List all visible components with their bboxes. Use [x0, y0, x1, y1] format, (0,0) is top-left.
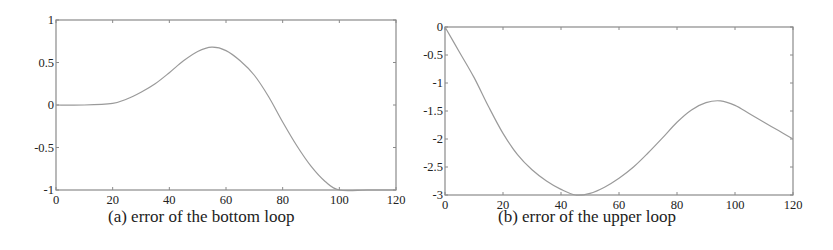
y-tick-label: -2: [433, 132, 443, 146]
y-tick-label: 0.5: [38, 56, 54, 70]
chart-caption-b: (b) error of the upper loop: [498, 207, 676, 227]
plot-frame: [56, 20, 396, 190]
chart-panel-b: 020406080100120-3-2.5-2-1.5-1-0.50 (b) e…: [415, 0, 833, 250]
chart-panel-a: 020406080100120-1-0.500.51 (a) error of …: [0, 0, 415, 250]
plot-frame: [445, 27, 793, 195]
x-tick-label: 100: [726, 198, 745, 212]
y-tick-label: 0: [48, 98, 54, 112]
y-tick-label: -2.5: [423, 160, 443, 174]
y-tick-label: -1: [433, 76, 443, 90]
y-tick-label: -0.5: [34, 141, 54, 155]
y-tick-label: 0: [437, 20, 443, 34]
y-tick-label: -0.5: [423, 48, 443, 62]
y-tick-label: 1: [48, 13, 54, 27]
data-line: [445, 27, 793, 195]
y-tick-label: -1: [44, 183, 54, 197]
chart-caption-a: (a) error of the bottom loop: [108, 207, 294, 227]
x-tick-label: 100: [330, 193, 349, 207]
x-tick-label: 120: [784, 198, 803, 212]
y-tick-label: -3: [433, 188, 443, 202]
x-tick-label: 20: [106, 193, 119, 207]
x-tick-label: 40: [163, 193, 176, 207]
x-tick-label: 120: [387, 193, 406, 207]
x-tick-label: 60: [220, 193, 233, 207]
y-tick-label: -1.5: [423, 104, 443, 118]
x-tick-label: 80: [276, 193, 289, 207]
data-line: [56, 47, 396, 190]
